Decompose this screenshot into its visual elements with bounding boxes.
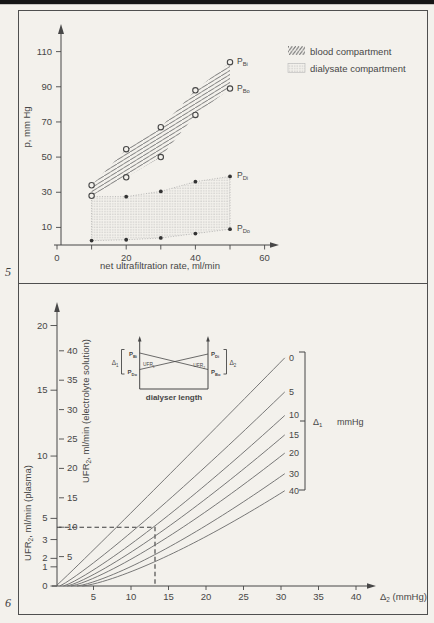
- P_Bo-point: [158, 154, 163, 159]
- P_Bo-label: PBo: [237, 83, 250, 94]
- P_Bo-point: [193, 112, 198, 117]
- fig6-x-tick-label: 10: [126, 591, 137, 602]
- P_Bi-point: [124, 146, 129, 151]
- fig5-y-tick-label: 70: [41, 116, 52, 127]
- legend-swatch-blood: [288, 46, 305, 55]
- P_Di-point: [194, 180, 198, 184]
- P_Di-point: [159, 189, 163, 193]
- fig6-plasma-tick-label: 20: [37, 320, 48, 331]
- fig6-inset-diagram: PBiPDoΔ1UFR1UFR2PDiPBoΔ2dialyser length: [112, 336, 237, 402]
- P_Di-point: [124, 195, 128, 199]
- fig6-line-label-0: 0: [289, 353, 294, 363]
- scanned-figure-page: 02040601030507090110net ultrafiltration …: [0, 0, 434, 623]
- fig5-x-tick-label: 0: [54, 252, 59, 263]
- fig5-legend: blood compartmentdialysate compartment: [288, 46, 406, 75]
- fig6-inner-tick-label: 5: [67, 551, 72, 562]
- figure5-number: 5: [5, 265, 19, 280]
- legend-label-dialysate: dialysate compartment: [310, 63, 406, 74]
- P_Do-point: [228, 227, 232, 231]
- P_Bi-point: [89, 183, 94, 188]
- P_Bi-point: [158, 125, 163, 130]
- fig6-x-tick-label: 15: [163, 591, 174, 602]
- fig5-y-tick-label: 10: [41, 221, 52, 232]
- fig6-plasma-tick-label: 15: [37, 384, 48, 395]
- fig6-line-label-5: 5: [289, 387, 294, 397]
- legend-swatch-dialysate: [288, 64, 305, 73]
- fig6-x-axis-title: Δ2 (mmHg): [380, 591, 427, 603]
- fig6-plasma-tick-label: 10: [37, 450, 48, 461]
- fig5-x-tick-label: 60: [259, 252, 270, 263]
- inset-pbo-label: PBo: [211, 369, 221, 377]
- figure-outer-frame: [19, 11, 428, 615]
- inset-caption: dialyser length: [146, 393, 203, 402]
- fig6-x-tick-label: 35: [313, 591, 324, 602]
- fig6-delta1-bracket: [299, 352, 305, 490]
- fig6-line-label-10: 10: [289, 410, 299, 420]
- fig5-y-tick-label: 50: [41, 151, 52, 162]
- fig6-delta1-label: Δ1: [313, 417, 323, 428]
- fig6-x-tick-label: 5: [91, 591, 96, 602]
- dialysate-band: [92, 176, 230, 240]
- fig6-line-delta1-30: [77, 474, 285, 586]
- figure6-number: 6: [5, 596, 19, 611]
- inset-ufr2-label: UFR2: [193, 363, 205, 370]
- fig5-x-axis-arrow: [270, 242, 279, 248]
- fig5-y-tick-label: 110: [37, 46, 52, 57]
- fig6-plasma-tick-label: 3: [42, 534, 47, 545]
- fig5-y-tick-label: 90: [41, 81, 52, 92]
- figure5-chart: 02040601030507090110net ultrafiltration …: [21, 24, 279, 271]
- fig6-inner-tick-label: 20: [67, 462, 78, 473]
- P_Bo-point: [124, 175, 129, 180]
- fig6-line-label-30: 30: [289, 469, 299, 479]
- inset-delta1-bracket: [122, 350, 125, 375]
- fig5-y-axis-title: p, mm Hg: [21, 106, 32, 147]
- inset-delta1-label: Δ1: [112, 359, 119, 368]
- fig6-delta1-unit: mmHg: [337, 417, 364, 427]
- P_Do-label: PDo: [237, 223, 250, 234]
- fig6-inner-tick-label: 15: [67, 492, 78, 503]
- fig6-x-tick-label: 25: [238, 591, 249, 602]
- inset-delta2-bracket: [224, 350, 227, 375]
- fig6-plasma-tick-label: 0: [42, 580, 47, 591]
- inset-right-arrow: [206, 336, 210, 342]
- fig6-inner-tick-label: 30: [67, 404, 78, 415]
- P_Bi-point: [227, 59, 232, 64]
- fig5-y-axis-arrow: [58, 24, 64, 34]
- fig6-inner-tick-label: 40: [67, 345, 78, 356]
- inset-delta2-label: Δ2: [230, 359, 237, 368]
- page-top-bar: [0, 0, 434, 4]
- P_Di-point: [228, 175, 232, 179]
- fig6-line-delta1-5: [60, 392, 285, 586]
- fig6-y-axis-arrow: [54, 302, 60, 312]
- fig6-x-tick-label: 30: [276, 591, 287, 602]
- P_Bo-point: [227, 86, 232, 91]
- fig6-x-tick-label: 20: [201, 591, 212, 602]
- figure-canvas: 02040601030507090110net ultrafiltration …: [0, 0, 434, 623]
- fig6-line-label-15: 15: [289, 430, 299, 440]
- legend-label-blood: blood compartment: [310, 46, 392, 57]
- P_Do-point: [194, 232, 198, 236]
- inset-pbi-label: PBi: [129, 351, 137, 359]
- fig6-plasma-tick-label: 5: [42, 512, 47, 523]
- fig6-plasma-tick-label: 2: [42, 552, 47, 563]
- fig6-inner-tick-label: 35: [67, 374, 78, 385]
- fig6-x-tick-label: 40: [351, 591, 362, 602]
- P_Bi-label: PBi: [237, 56, 248, 67]
- fig6-left-axis-title: UFR2, ml/min (plasma): [22, 465, 34, 561]
- fig5-y-tick-label: 30: [41, 186, 52, 197]
- P_Bo-point: [89, 193, 94, 198]
- fig6-line-label-20: 20: [289, 448, 299, 458]
- inset-left-arrow: [138, 336, 142, 342]
- fig6-x-axis-arrow: [367, 583, 376, 589]
- inset-pdo-label: PDo: [128, 369, 138, 377]
- figure6-chart: 510152025303540Δ2 (mmHg)5101520253035400…: [22, 302, 427, 603]
- P_Bi-point: [193, 88, 198, 93]
- P_Do-point: [90, 239, 94, 243]
- fig6-inner-tick-label: 25: [67, 433, 78, 444]
- fig6-inner-axis-title: UFR2, ml/min (electrolyte solution): [80, 339, 92, 483]
- fig6-line-label-40: 40: [289, 486, 299, 496]
- inset-pdi-label: PDi: [211, 351, 219, 359]
- P_Do-point: [124, 238, 128, 242]
- fig5-x-axis-title: net ultrafiltration rate, ml/min: [100, 260, 220, 271]
- P_Do-point: [159, 236, 163, 240]
